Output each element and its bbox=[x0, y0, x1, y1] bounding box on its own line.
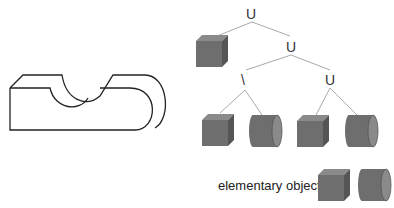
legend-cylinder-icon bbox=[358, 169, 391, 201]
operator-mid: U bbox=[286, 39, 296, 55]
cube-icon bbox=[297, 115, 329, 147]
cylinder-icon bbox=[345, 115, 378, 147]
cube-icon bbox=[196, 35, 228, 67]
operator-right: U bbox=[325, 72, 335, 88]
legend-label: elementary objects bbox=[218, 178, 328, 193]
operator-left: \ bbox=[241, 72, 245, 88]
legend-cube-icon bbox=[318, 169, 350, 201]
cube-icon bbox=[202, 114, 234, 146]
operator-root: U bbox=[246, 6, 256, 22]
csg-diagram: U U \ U elementary objects bbox=[0, 0, 394, 208]
tree-edges bbox=[217, 22, 357, 115]
cylinder-icon bbox=[249, 115, 282, 147]
result-object bbox=[10, 75, 165, 130]
